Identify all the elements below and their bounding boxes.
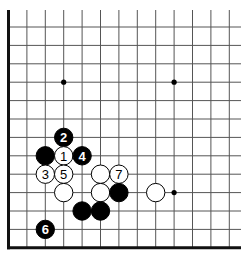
black-stone	[36, 147, 54, 165]
black-stone-4: 4	[73, 147, 91, 165]
black-stone	[91, 202, 109, 220]
white-stone-body	[91, 165, 109, 183]
black-stone-body	[36, 147, 54, 165]
white-stone-5: 5	[55, 165, 73, 183]
grid-lines	[9, 10, 242, 248]
move-number-label: 1	[60, 149, 67, 164]
move-number-label: 4	[78, 149, 86, 164]
white-stone	[147, 183, 165, 201]
move-number-label: 3	[42, 167, 49, 182]
white-stone-3: 3	[36, 165, 54, 183]
white-stone-7: 7	[110, 165, 128, 183]
white-stone-body	[147, 183, 165, 201]
black-stone-body	[110, 183, 128, 201]
star-point	[172, 190, 177, 195]
black-stone-2: 2	[55, 128, 73, 146]
black-stone-body	[91, 202, 109, 220]
black-stone	[73, 202, 91, 220]
move-number-label: 7	[115, 167, 122, 182]
move-number-label: 2	[60, 130, 67, 145]
white-stone	[91, 183, 109, 201]
white-stone-body	[55, 183, 73, 201]
star-point	[61, 80, 66, 85]
black-stone-body	[73, 202, 91, 220]
white-stone-body	[91, 183, 109, 201]
move-number-label: 6	[42, 222, 49, 237]
white-stone	[55, 183, 73, 201]
black-stone	[110, 183, 128, 201]
go-board: 2143576	[0, 0, 250, 256]
star-point	[172, 80, 177, 85]
black-stone-6: 6	[36, 220, 54, 238]
move-number-label: 5	[60, 167, 67, 182]
white-stone	[91, 165, 109, 183]
white-stone-1: 1	[55, 147, 73, 165]
